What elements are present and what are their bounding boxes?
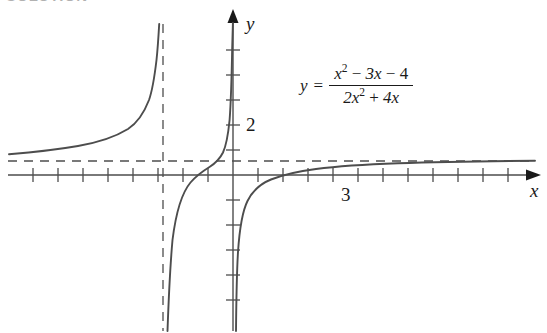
curve-left-branch [9, 24, 159, 154]
equation-denominator: 2x2 + 4x [338, 86, 404, 109]
axes-group [8, 9, 541, 331]
denominator-quadratic-term: 2x [343, 88, 359, 107]
equation-lhs: y [300, 76, 308, 96]
y-axis-arrowhead [228, 9, 239, 23]
equation-fraction: x2 − 3x − 4 2x2 + 4x [329, 62, 413, 110]
numerator-first-minus: − [352, 64, 362, 83]
denominator-linear-term: 4x [383, 88, 399, 107]
numerator-x-term: x [334, 64, 342, 83]
x-axis-arrowhead [526, 170, 541, 181]
x-axis-label: x [530, 180, 538, 202]
function-equation: y = x2 − 3x − 4 2x2 + 4x [300, 62, 413, 110]
y-axis-label: y [246, 13, 254, 35]
asymptotes-group [8, 24, 535, 331]
numerator-constant-term: 4 [400, 64, 409, 83]
curve-group [9, 23, 535, 331]
denominator-plus-sign: + [369, 88, 379, 107]
y-axis-tick-label-2: 2 [246, 114, 256, 136]
numerator-linear-term: 3x [366, 64, 382, 83]
curve-right-branch [236, 161, 535, 331]
curve-middle-branch [168, 23, 233, 331]
rational-function-figure: SOLUTION [0, 0, 547, 333]
equation-numerator: x2 − 3x − 4 [329, 62, 413, 85]
x-axis-tick-label-3: 3 [341, 184, 351, 206]
denominator-x-exponent: 2 [359, 87, 365, 100]
graph-canvas [0, 0, 547, 333]
numerator-second-minus: − [386, 64, 396, 83]
numerator-x-exponent: 2 [342, 62, 348, 75]
equation-equals-sign: = [314, 76, 324, 96]
